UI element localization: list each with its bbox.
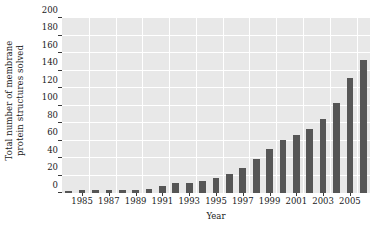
gridline-horizontal <box>62 87 370 88</box>
gridline-horizontal <box>62 17 370 18</box>
gridline-horizontal <box>62 52 370 53</box>
bar <box>347 78 354 193</box>
y-axis-title: Total number of membrane protein structu… <box>0 0 30 200</box>
y-axis-title-line-2: protein structures solved <box>15 40 26 160</box>
x-axis-tick-label: 1999 <box>259 196 281 206</box>
bar <box>333 103 340 193</box>
y-axis-tick-label: 180 <box>32 23 58 32</box>
y-axis-tick-label: 80 <box>32 111 58 120</box>
y-axis-tick-label: 200 <box>32 6 58 15</box>
x-axis-tick-labels: 1985198719891991199319951997199920012003… <box>62 196 370 210</box>
gridline-vertical <box>89 18 90 193</box>
y-axis-tick-label: 20 <box>32 163 58 172</box>
gridline-vertical <box>169 18 170 193</box>
x-axis-tick-label: 2005 <box>339 196 361 206</box>
gridline-horizontal <box>62 70 370 71</box>
gridline-vertical <box>276 18 277 193</box>
gridline-horizontal <box>62 105 370 106</box>
bar <box>293 135 300 193</box>
bar <box>159 186 166 193</box>
gridline-vertical <box>249 18 250 193</box>
gridline-vertical <box>303 18 304 193</box>
x-axis-tick-label: 1989 <box>125 196 147 206</box>
y-axis-tick-label: 120 <box>32 76 58 85</box>
y-axis-tick-labels: 020406080100120140160180200 <box>30 18 58 193</box>
membrane-protein-structures-bar-chart: Total number of membrane protein structu… <box>0 0 380 239</box>
bar <box>360 60 367 193</box>
y-axis-tick-label: 40 <box>32 146 58 155</box>
x-axis-tick-label: 1991 <box>152 196 174 206</box>
gridline-vertical <box>142 18 143 193</box>
bar <box>199 181 206 193</box>
bar <box>320 119 327 193</box>
x-axis-tick-label: 2001 <box>286 196 308 206</box>
gridline-vertical <box>116 18 117 193</box>
x-axis-tick-label: 1987 <box>98 196 120 206</box>
bar <box>213 178 220 193</box>
gridline-vertical <box>357 18 358 193</box>
bar <box>253 159 260 193</box>
y-axis-tick-label: 60 <box>32 128 58 137</box>
y-axis-tick-label: 140 <box>32 58 58 67</box>
x-axis-tick-label: 1993 <box>178 196 200 206</box>
y-axis-tick-label: 100 <box>32 93 58 102</box>
x-axis-tick-label: 2003 <box>312 196 334 206</box>
gridline-vertical <box>223 18 224 193</box>
y-axis-tick-label: 160 <box>32 41 58 50</box>
x-axis-tick-label: 1995 <box>205 196 227 206</box>
bar <box>186 183 193 193</box>
gridline-vertical <box>196 18 197 193</box>
bar <box>280 140 287 193</box>
bar <box>239 168 246 193</box>
gridline-horizontal <box>62 35 370 36</box>
bar <box>266 149 273 193</box>
y-axis-title-line-1: Total number of membrane <box>5 40 16 160</box>
gridline-vertical <box>330 18 331 193</box>
x-axis-tick-label: 1985 <box>71 196 93 206</box>
bar <box>306 129 313 193</box>
plot-area <box>62 18 370 193</box>
x-axis-tick-label: 1997 <box>232 196 254 206</box>
bar <box>226 174 233 193</box>
x-axis-title: Year <box>62 211 370 221</box>
y-axis-tick-label: 0 <box>32 181 58 190</box>
bar <box>172 183 179 193</box>
